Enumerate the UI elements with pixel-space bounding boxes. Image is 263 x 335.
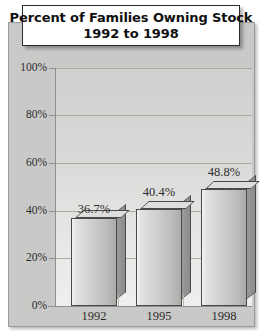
chart-figure: 100% 80% 60% 40% 20% 0% 36.7% 40.4% 48.8… [0, 0, 263, 335]
x-axis-line [48, 306, 252, 307]
y-tick-mark-20 [49, 258, 55, 259]
x-tick-label-1992: 1992 [64, 309, 124, 324]
y-tick-label-80: 80% [26, 108, 47, 120]
y-tick-mark-80 [49, 115, 55, 116]
bar-value-1992: 36.7% [64, 202, 124, 217]
y-tick-label-60: 60% [26, 156, 47, 168]
y-tick-label-100: 100% [20, 61, 47, 73]
bar-value-1995: 40.4% [129, 185, 189, 200]
bar-side-1992 [117, 204, 126, 299]
bar-top-1998 [205, 181, 260, 189]
bar-side-1998 [247, 175, 256, 299]
y-axis-line [55, 68, 56, 307]
x-tick-mark-1 [118, 295, 119, 306]
x-tick-label-1998: 1998 [194, 309, 254, 324]
y-tick-mark-0 [49, 306, 55, 307]
y-tick-mark-100 [49, 68, 55, 69]
bar-value-1998: 48.8% [194, 165, 254, 180]
chart-title-box: Percent of Families Owning Stock 1992 to… [22, 5, 240, 46]
bar-front-1998 [201, 189, 247, 306]
bar-top-1995 [140, 201, 195, 209]
y-tick-mark-60 [49, 163, 55, 164]
y-tick-label-40: 40% [26, 204, 47, 216]
bar-side-1995 [182, 195, 191, 299]
chart-subtitle: 1992 to 1998 [83, 26, 178, 42]
bar-front-1995 [136, 209, 182, 306]
bar-1998 [201, 68, 247, 306]
y-tick-label-0: 0% [32, 299, 47, 311]
y-tick-mark-40 [49, 211, 55, 212]
x-tick-label-1995: 1995 [129, 309, 189, 324]
bar-1992 [71, 68, 117, 306]
bar-front-1992 [71, 218, 117, 306]
chart-title: Percent of Families Owning Stock [10, 10, 253, 26]
y-tick-label-20: 20% [26, 251, 47, 263]
x-tick-mark-2 [183, 295, 184, 306]
